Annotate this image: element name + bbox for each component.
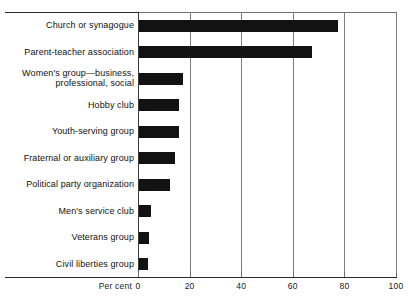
tick-label-60: 60: [288, 281, 298, 291]
category-label: Women's group—business, professional, so…: [4, 65, 134, 92]
bar: [139, 152, 175, 164]
tick-mark-60: [293, 271, 294, 277]
bar: [139, 232, 149, 244]
category-label: Political party organization: [4, 171, 134, 198]
bar: [139, 73, 183, 85]
x-axis-title: Per cent: [99, 281, 132, 291]
tick-label-20: 20: [185, 281, 195, 291]
bar-row: Hobby club: [0, 92, 408, 119]
bar-row: Veterans group: [0, 224, 408, 251]
bar-row: Youth-serving group: [0, 118, 408, 145]
bar-row: Church or synagogue: [0, 12, 408, 39]
bar: [139, 126, 179, 138]
bar-row: Men's service club: [0, 198, 408, 225]
x-axis-rule: [5, 277, 397, 278]
bar: [139, 20, 338, 32]
category-label: Hobby club: [4, 92, 134, 119]
bar: [139, 46, 312, 58]
bar-row: Parent-teacher association: [0, 39, 408, 66]
bar: [139, 99, 179, 111]
bar: [139, 179, 170, 191]
category-label: Veterans group: [4, 224, 134, 251]
tick-mark-0: [138, 271, 139, 277]
category-label: Youth-serving group: [4, 118, 134, 145]
category-label: Fraternal or auxiliary group: [4, 145, 134, 172]
category-label: Parent-teacher association: [4, 39, 134, 66]
bar-row: Fraternal or auxiliary group: [0, 145, 408, 172]
bar-chart-figure: Church or synagogueParent-teacher associ…: [0, 0, 408, 302]
category-label: Men's service club: [4, 198, 134, 225]
bar-row: Women's group—business, professional, so…: [0, 65, 408, 92]
bar-row: Political party organization: [0, 171, 408, 198]
tick-mark-20: [190, 271, 191, 277]
bar: [139, 205, 151, 217]
bar: [139, 258, 148, 270]
tick-label-100: 100: [389, 281, 404, 291]
bar-row: Civil liberties group: [0, 251, 408, 278]
tick-label-80: 80: [339, 281, 349, 291]
tick-label-40: 40: [236, 281, 246, 291]
tick-mark-80: [344, 271, 345, 277]
category-label: Civil liberties group: [4, 251, 134, 278]
tick-mark-100: [396, 271, 397, 277]
tick-label-0: 0: [136, 281, 141, 291]
tick-mark-40: [241, 271, 242, 277]
category-label: Church or synagogue: [4, 12, 134, 39]
